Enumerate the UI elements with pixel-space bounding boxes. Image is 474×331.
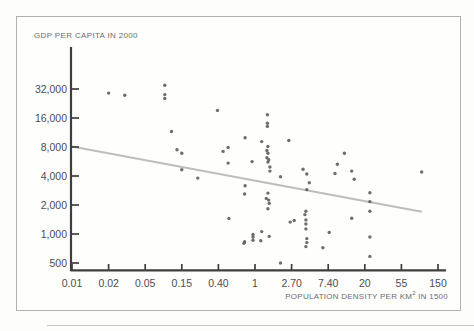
x-tick-label: 1	[252, 277, 258, 289]
data-point	[328, 231, 331, 234]
data-point	[368, 191, 371, 194]
data-point	[333, 172, 336, 175]
page-root: { "chart_data": { "type": "scatter", "yl…	[0, 0, 474, 331]
scatter-plot: 5001,0002,0004,0008,00016,00032,0000.010…	[0, 0, 474, 331]
data-point	[251, 235, 254, 238]
data-point	[243, 192, 246, 195]
data-point	[279, 175, 282, 178]
y-tick-label: 1,000	[41, 228, 67, 240]
data-point	[196, 176, 199, 179]
x-axis-title-suffix: IN 1500	[416, 292, 448, 301]
data-point	[301, 168, 304, 171]
x-tick-label: 55	[396, 277, 408, 289]
data-point	[305, 188, 308, 191]
data-point	[266, 152, 269, 155]
data-point	[163, 84, 166, 87]
data-point	[336, 163, 339, 166]
data-point	[260, 140, 263, 143]
x-tick-label: 7.40	[318, 277, 339, 289]
data-point	[420, 170, 423, 173]
data-point	[226, 161, 229, 164]
data-point	[353, 178, 356, 181]
data-point	[163, 97, 166, 100]
data-point	[304, 210, 307, 213]
data-point	[287, 139, 290, 142]
y-axis-title: GDP PER CAPITA IN 2000	[34, 31, 138, 40]
data-point	[180, 168, 183, 171]
data-point	[266, 122, 269, 125]
data-point	[293, 219, 296, 222]
x-axis-title-text: POPULATION DENSITY PER KM	[285, 292, 412, 301]
data-point	[243, 136, 246, 139]
data-point	[250, 160, 253, 163]
data-point	[243, 184, 246, 187]
data-point	[260, 230, 263, 233]
data-point	[259, 239, 262, 242]
x-axis-title: POPULATION DENSITY PER KM2 IN 1500	[285, 292, 448, 301]
data-point	[343, 152, 346, 155]
data-point	[321, 246, 324, 249]
data-point	[251, 239, 254, 242]
data-point	[221, 150, 224, 153]
data-point	[227, 217, 230, 220]
data-point	[266, 125, 269, 128]
x-tick-label: 2.70	[281, 277, 302, 289]
data-point	[289, 220, 292, 223]
y-tick-label: 32,000	[35, 83, 67, 95]
x-tick-label: 150	[429, 277, 447, 289]
data-point	[266, 145, 269, 148]
data-point	[350, 169, 353, 172]
data-point	[368, 255, 371, 258]
data-point	[305, 172, 308, 175]
bottom-separator-line	[47, 325, 474, 326]
x-tick-label: 20	[359, 277, 371, 289]
data-point	[243, 240, 246, 243]
y-tick-label: 2,000	[41, 199, 67, 211]
y-tick-label: 500	[49, 257, 67, 269]
data-point	[266, 160, 269, 163]
data-point	[304, 227, 307, 230]
data-point	[226, 146, 229, 149]
data-point	[305, 241, 308, 244]
data-point	[304, 245, 307, 248]
data-point	[266, 113, 269, 116]
y-tick-label: 4,000	[41, 170, 67, 182]
data-point	[304, 222, 307, 225]
data-point	[175, 148, 178, 151]
data-point	[268, 169, 271, 172]
data-point	[303, 213, 306, 216]
data-point	[304, 218, 307, 221]
data-point	[180, 152, 183, 155]
data-point	[305, 237, 308, 240]
data-point	[268, 235, 271, 238]
data-point	[368, 235, 371, 238]
data-point	[350, 217, 353, 220]
y-tick-label: 16,000	[35, 112, 67, 124]
data-point	[268, 202, 271, 205]
data-point	[368, 200, 371, 203]
x-tick-label: 0.40	[208, 277, 229, 289]
y-tick-label: 8,000	[41, 141, 67, 153]
data-point	[267, 198, 270, 201]
x-tick-label: 0.15	[172, 277, 193, 289]
data-point	[268, 165, 271, 168]
data-point	[308, 181, 311, 184]
data-point	[216, 109, 219, 112]
x-tick-label: 0.02	[98, 277, 119, 289]
data-point	[107, 91, 110, 94]
data-point	[266, 207, 269, 210]
data-point	[163, 93, 166, 96]
data-point	[266, 191, 269, 194]
data-point	[279, 261, 282, 264]
data-point	[368, 210, 371, 213]
data-point	[123, 94, 126, 97]
x-tick-label: 0.01	[62, 277, 83, 289]
x-tick-label: 0.05	[135, 277, 156, 289]
data-point	[170, 130, 173, 133]
